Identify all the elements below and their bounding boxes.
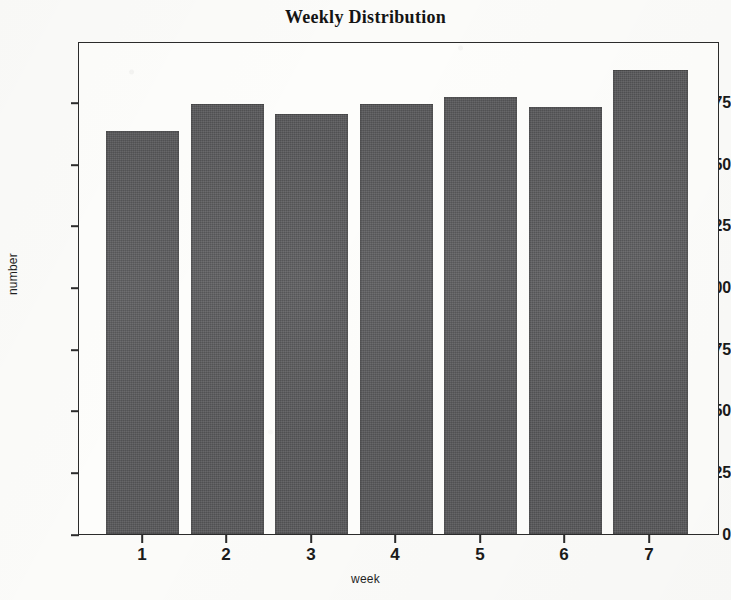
bar-week-7 (613, 70, 688, 534)
x-tick-label: 6 (559, 545, 568, 565)
x-tick-mark (225, 535, 227, 543)
x-tick-mark (563, 535, 565, 543)
x-axis-label: week (0, 572, 731, 586)
chart-title: Weekly Distribution (0, 7, 731, 28)
x-tick-mark (648, 535, 650, 543)
bar-week-2 (191, 104, 264, 534)
bar-week-4 (360, 104, 433, 534)
x-tick-mark (310, 535, 312, 543)
bar-week-5 (444, 97, 517, 534)
x-tick-label: 7 (644, 545, 653, 565)
chart-page: Weekly Distribution number 0 25 50 75 10… (0, 0, 731, 600)
bar-week-6 (529, 107, 602, 534)
x-tick-label: 4 (390, 545, 399, 565)
x-tick-mark (394, 535, 396, 543)
x-tick-label: 3 (306, 545, 315, 565)
x-tick-label: 5 (475, 545, 484, 565)
x-tick-label: 2 (221, 545, 230, 565)
plot-frame (78, 42, 719, 535)
y-axis-label: number (6, 253, 20, 295)
bar-week-3 (275, 114, 348, 534)
plot-area (79, 43, 718, 534)
x-tick-mark (479, 535, 481, 543)
bar-week-1 (106, 131, 179, 534)
x-tick-mark (141, 535, 143, 543)
x-tick-label: 1 (137, 545, 146, 565)
